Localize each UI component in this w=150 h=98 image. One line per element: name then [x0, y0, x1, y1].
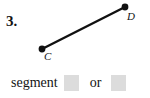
line-segment-figure: C D: [0, 0, 150, 68]
answer-prompt-row: segment or: [0, 71, 150, 95]
answer-blank-first[interactable]: [64, 75, 79, 91]
answer-blank-second[interactable]: [111, 75, 126, 91]
answer-prefix-word: segment: [11, 76, 58, 90]
point-c-label: C: [44, 50, 52, 62]
answer-conjunction: or: [90, 76, 102, 90]
segment-line: [42, 7, 125, 49]
point-d-label: D: [126, 10, 135, 22]
segment-cd-diagram: C D: [0, 0, 150, 68]
worksheet-problem: 3. C D segment or: [0, 0, 150, 98]
